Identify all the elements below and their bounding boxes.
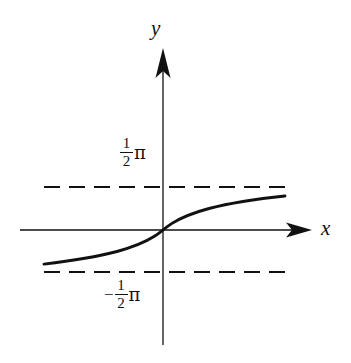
fraction-numerator: 1 [115, 278, 127, 294]
fraction-denominator: 2 [121, 153, 133, 169]
pi-symbol-lower: π [129, 286, 141, 304]
plot-canvas [0, 0, 351, 363]
upper-asymptote-label: 1 2 π [120, 136, 146, 169]
x-axis-label: x [321, 218, 330, 239]
lower-asymptote-label: − 1 2 π [104, 278, 140, 311]
minus-sign-icon: − [104, 286, 114, 304]
fraction-numerator: 1 [121, 136, 133, 152]
y-axis-label: y [151, 18, 160, 39]
fraction-one-half-lower: 1 2 [115, 278, 128, 311]
fraction-one-half-upper: 1 2 [120, 136, 133, 169]
fraction-denominator: 2 [115, 295, 127, 311]
arctan-graph-figure: y x 1 2 π − 1 2 π [0, 0, 351, 363]
pi-symbol-upper: π [134, 144, 146, 162]
